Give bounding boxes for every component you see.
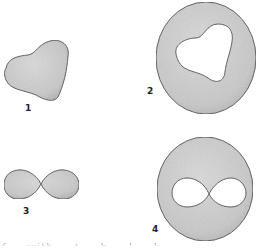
shape-3-figure-eight [4, 170, 79, 199]
shape-4-disk-with-figure-eight-hole [157, 137, 253, 241]
panel-label-1: 1 [25, 103, 31, 113]
panel-label-2: 2 [147, 86, 153, 96]
shape-2-disk-with-triangle-hole [156, 2, 256, 114]
panel-label-3: 3 [23, 206, 29, 216]
panel-label-4: 4 [152, 224, 158, 234]
shape-1-blob [5, 40, 69, 100]
figure-canvas [0, 0, 265, 249]
